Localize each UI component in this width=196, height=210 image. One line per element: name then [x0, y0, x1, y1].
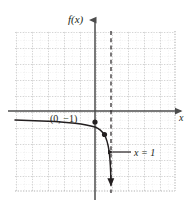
- point-marker-y-intercept: [92, 119, 97, 124]
- y-axis-label: f(x): [68, 14, 83, 25]
- x-axis-label: x: [179, 113, 183, 123]
- function-graph-figure: f(x) x (0, −1) x = 1: [0, 0, 196, 210]
- y-intercept-label: (0, −1): [50, 114, 77, 124]
- graph-canvas: [0, 0, 196, 210]
- point-marker-curve: [102, 132, 107, 137]
- asymptote-label: x = 1: [134, 148, 155, 158]
